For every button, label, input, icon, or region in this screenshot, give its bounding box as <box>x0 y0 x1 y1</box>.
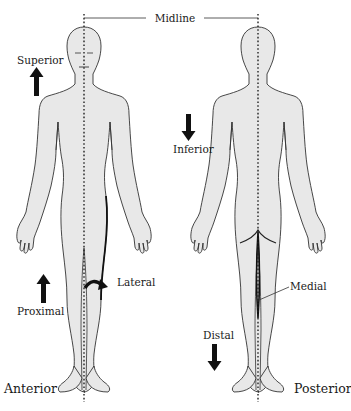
superior-arrow-icon <box>30 67 44 96</box>
inferior-label: Inferior <box>173 143 215 155</box>
anterior-label: Anterior <box>3 381 57 396</box>
distal-label: Distal <box>203 329 235 341</box>
lateral-label: Lateral <box>117 276 156 288</box>
anatomical-directions-diagram: Midline Superior Inferior Proximal Later… <box>0 0 351 411</box>
superior-label: Superior <box>17 54 65 66</box>
distal-arrow-icon <box>208 344 222 371</box>
posterior-label: Posterior <box>294 381 351 396</box>
proximal-arrow-icon <box>37 274 51 303</box>
inferior-arrow-icon <box>182 114 196 141</box>
proximal-label: Proximal <box>17 305 65 317</box>
midline-label: Midline <box>155 12 196 24</box>
medial-label: Medial <box>290 280 327 292</box>
